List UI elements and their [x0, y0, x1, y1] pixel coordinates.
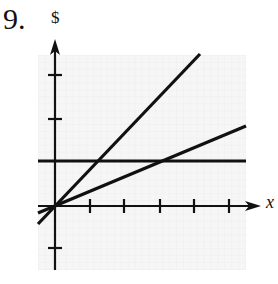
chart-plot [0, 0, 278, 284]
